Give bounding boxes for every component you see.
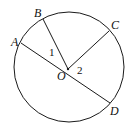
circle-o (14, 12, 124, 122)
center-point-o (67, 68, 69, 70)
angle-label-2: 2 (77, 64, 83, 76)
geometry-figure: A B C D O 1 2 (0, 0, 131, 134)
radius-ob (43, 19, 68, 69)
figure-canvas: A B C D O 1 2 (0, 0, 131, 134)
label-o: O (57, 69, 66, 83)
radius-oc (68, 31, 109, 69)
angle-label-1: 1 (49, 46, 55, 58)
label-b: B (34, 6, 42, 20)
label-c: C (111, 18, 120, 32)
label-a: A (10, 35, 19, 49)
label-d: D (109, 104, 119, 118)
